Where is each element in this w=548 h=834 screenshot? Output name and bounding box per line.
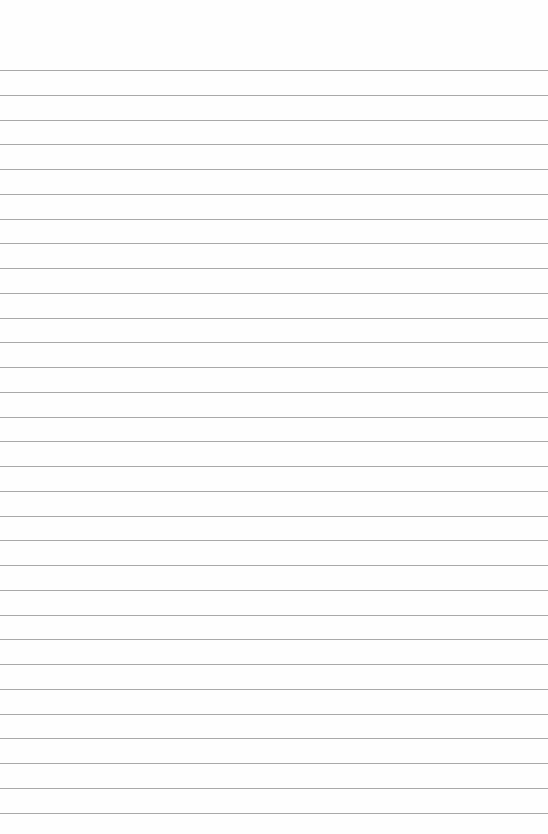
ruled-line (0, 70, 548, 71)
ruled-line (0, 615, 548, 616)
ruled-line (0, 417, 548, 418)
ruled-line (0, 392, 548, 393)
ruled-line (0, 293, 548, 294)
ruled-line (0, 318, 548, 319)
ruled-line (0, 342, 548, 343)
ruled-line (0, 540, 548, 541)
ruled-line (0, 243, 548, 244)
lined-paper (0, 0, 548, 834)
ruled-line (0, 689, 548, 690)
ruled-line (0, 565, 548, 566)
ruled-line (0, 144, 548, 145)
ruled-line (0, 95, 548, 96)
ruled-line (0, 169, 548, 170)
ruled-line (0, 714, 548, 715)
ruled-line (0, 763, 548, 764)
ruled-line (0, 639, 548, 640)
ruled-line (0, 516, 548, 517)
ruled-line (0, 590, 548, 591)
ruled-line (0, 738, 548, 739)
ruled-line (0, 268, 548, 269)
ruled-line (0, 120, 548, 121)
ruled-line (0, 219, 548, 220)
ruled-line (0, 664, 548, 665)
ruled-line (0, 491, 548, 492)
ruled-line (0, 441, 548, 442)
ruled-line (0, 466, 548, 467)
ruled-line (0, 194, 548, 195)
ruled-line (0, 788, 548, 789)
ruled-line (0, 813, 548, 814)
ruled-line (0, 367, 548, 368)
